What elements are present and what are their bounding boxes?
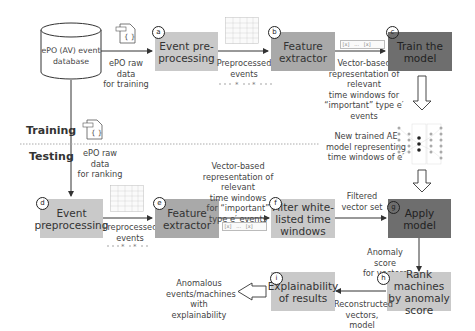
training-vector-label-3: time windows for — [318, 90, 410, 101]
testing-vector-label-4: for “important” — [198, 203, 278, 214]
badge-e: e — [153, 197, 166, 210]
testing-vector-label-1: Vector-based — [198, 161, 278, 172]
database-label-line1: ePO (AV) event — [40, 46, 102, 57]
step-h-label-1: Rank machines — [387, 268, 451, 292]
svg-text:*: * — [121, 243, 125, 251]
training-preprocessed-label-1: Preprocessed — [216, 58, 272, 69]
output-label-2: events/machines — [166, 289, 232, 300]
step-h-label-3: score — [387, 304, 451, 316]
reconstructed-label-2: vectors, model — [334, 310, 390, 331]
badge-f: f — [269, 197, 282, 210]
testing-preprocessed-label-2: events — [102, 233, 158, 244]
training-raw-data-label-1: ePO raw data — [100, 58, 152, 79]
reconstructed-label-1: Reconstructed — [334, 299, 390, 310]
step-i-label-2: of results — [268, 292, 339, 304]
json-file-icon-testing: { } — [82, 118, 104, 140]
step-d-event-preprocessing: Eventpreprocessing — [40, 199, 103, 238]
training-vector-label-2: representation of relevant — [318, 69, 410, 90]
step-a-label-2: processing — [158, 52, 215, 64]
json-file-icon: { } — [115, 22, 137, 44]
testing-vector-label-5: type e′ events — [198, 214, 278, 225]
testing-raw-data-label-1: ePO raw data — [74, 148, 126, 169]
testing-vector-label-2: representation of relevant — [198, 172, 278, 193]
neural-network-icon — [395, 122, 445, 166]
filtered-label-1: Filtered — [340, 191, 384, 202]
step-c-label-2: model — [397, 52, 443, 64]
testing-preprocessed-label-1: Preprocessed — [102, 222, 158, 233]
output-label-3: with explainability — [166, 299, 232, 320]
step-c-train-model: Train themodel — [388, 32, 452, 71]
step-d-label-2: preprocessing — [35, 219, 109, 231]
training-raw-data-label-2: for training — [100, 79, 152, 90]
step-a-label-1: Event pre- — [158, 40, 215, 52]
output-label-1: Anomalous — [166, 278, 232, 289]
anomaly-label-1: Anomaly score — [357, 247, 413, 268]
svg-text:*: * — [252, 81, 256, 89]
svg-text:*: * — [235, 81, 239, 89]
svg-text:{ }: { } — [91, 129, 102, 137]
vector-icon: [x] ... [x] — [340, 40, 385, 49]
svg-text:*: * — [133, 243, 137, 251]
badge-h: h — [377, 272, 390, 285]
badge-a: a — [152, 26, 165, 39]
step-h-label-2: by anomaly — [387, 292, 451, 304]
filtered-label-2: vector set — [340, 202, 384, 213]
table-icon — [225, 17, 259, 44]
training-vector-label-4: “important” type e′ events — [318, 100, 410, 121]
training-section-label: Training — [26, 124, 76, 137]
step-f-label-3: windows — [272, 225, 334, 237]
event-database: ePO (AV) event database — [40, 22, 102, 80]
step-c-label-1: Train the — [397, 40, 443, 52]
step-a-event-preprocessing: Event pre-processing — [155, 32, 218, 71]
badge-i: i — [270, 272, 283, 285]
badge-g: g — [387, 201, 400, 214]
badge-d: d — [36, 197, 49, 210]
table-icon-testing — [110, 185, 144, 212]
svg-text:{ }: { } — [124, 33, 135, 41]
training-preprocessed-label-2: events — [216, 69, 272, 80]
step-h-rank-machines: Rank machinesby anomalyscore — [387, 272, 451, 311]
testing-section-label: Testing — [29, 150, 74, 163]
badge-b: b — [268, 26, 281, 39]
step-b-label-1: Feature — [279, 40, 327, 52]
testing-vector-label-3: time windows — [198, 193, 278, 204]
testing-raw-data-label-2: for ranking — [74, 169, 126, 180]
badge-c: c — [386, 26, 399, 39]
step-f-label-2: listed time — [272, 213, 334, 225]
database-label-line2: database — [40, 57, 102, 68]
